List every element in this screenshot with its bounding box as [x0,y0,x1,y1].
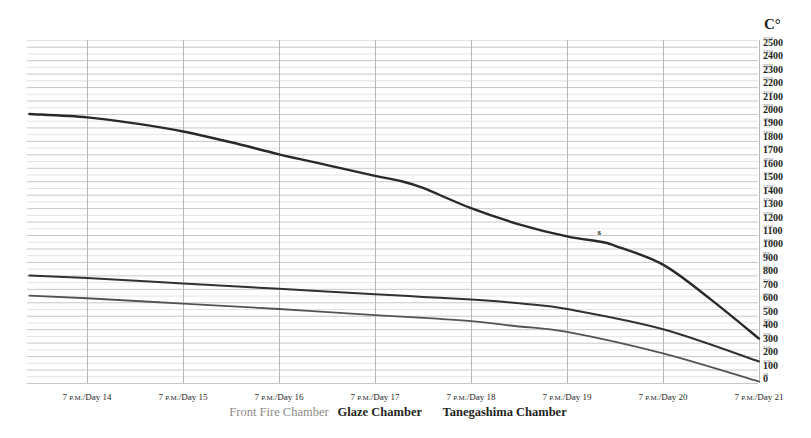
series-line-1 [29,275,759,361]
legend-item-0: Front Fire Chamber [229,405,328,420]
y-tick-minor-650: 650 [763,292,771,297]
y-tick-minor-750: 750 [763,278,771,283]
x-tick-day-17: 7 P.M./Day 17 [350,392,399,402]
legend-item-1: Glaze Chamber [338,405,422,420]
x-tick-day-16: 7 P.M./Day 16 [254,392,303,402]
y-tick-minor-2350: 2350 [763,63,773,68]
y-tick-minor-250: 250 [763,345,771,350]
legend-item-2: Tanegashima Chamber [442,405,566,420]
gridlines-vertical [88,40,760,383]
y-tick-minor-2250: 2250 [763,76,773,81]
y-tick-minor-50: 50 [763,372,768,377]
series-lines [29,114,759,382]
y-tick-minor-1750: 1750 [763,144,773,149]
y-tick-minor-1050: 1050 [763,238,773,243]
y-tick-minor-1950: 1950 [763,117,773,122]
y-tick-minor-2050: 2050 [763,103,773,108]
y-tick-minor-1550: 1550 [763,171,773,176]
x-tick-day-14: 7 P.M./Day 14 [62,392,111,402]
y-tick-minor-350: 350 [763,332,771,337]
y-axis-unit-label: C° [764,16,781,33]
y-tick-minor-1650: 1650 [763,157,773,162]
series-line-2 [29,296,759,382]
y-tick-minor-2450: 2450 [763,49,773,54]
y-tick-minor-1850: 1850 [763,130,773,135]
annotation-s: s [598,227,602,237]
y-tick-minor-1250: 1250 [763,211,773,216]
x-tick-day-18: 7 P.M./Day 18 [446,392,495,402]
y-tick-minor-850: 850 [763,265,771,270]
y-tick-minor-950: 950 [763,251,771,256]
x-tick-day-20: 7 P.M./Day 20 [638,392,687,402]
y-tick-minor-1150: 1150 [763,224,773,229]
x-tick-day-19: 7 P.M./Day 19 [542,392,591,402]
x-tick-day-21: 7 P.M./Day 21 [734,392,783,402]
chart-canvas [0,0,811,438]
y-tick-minor-2550: 2550 [763,36,773,41]
y-tick-minor-1350: 1350 [763,197,773,202]
x-tick-day-15: 7 P.M./Day 15 [158,392,207,402]
y-tick-minor-550: 550 [763,305,771,310]
y-tick-minor-150: 150 [763,359,771,364]
y-tick-minor-450: 450 [763,318,771,323]
y-tick-minor-2150: 2150 [763,90,773,95]
y-tick-minor-1450: 1450 [763,184,773,189]
kiln-temperature-chart: C° 2500240023002200210020001900180017001… [0,0,811,438]
